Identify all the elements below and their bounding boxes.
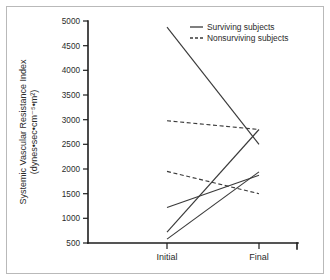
y-tick-label-3500: 3500 [62, 91, 81, 100]
y-tick-label-4000: 4000 [62, 66, 81, 75]
figure-root: 5000 4500 4000 3500 3000 2500 2000 1500 … [0, 0, 330, 280]
legend: Surviving subjects Nonsurviving subjects [190, 22, 288, 43]
series-group-nonsurviving [167, 121, 259, 194]
y-axis-title-line2: (dynes•sec•cm⁻⁵•m²) [29, 90, 39, 175]
y-tick-label-1500: 1500 [62, 190, 81, 199]
series-group-surviving [167, 27, 259, 239]
y-tick-label-2000: 2000 [62, 165, 81, 174]
y-tick-label-4500: 4500 [62, 42, 81, 51]
x-tick-label-initial: Initial [156, 252, 177, 262]
y-tick-label-2500: 2500 [62, 140, 81, 149]
y-tick-label-1000: 1000 [62, 214, 81, 223]
line-chart: 5000 4500 4000 3500 3000 2500 2000 1500 … [0, 0, 330, 280]
x-tick-marks [167, 243, 259, 249]
legend-label-nonsurviving: Nonsurviving subjects [207, 33, 288, 43]
legend-label-surviving: Surviving subjects [207, 22, 275, 32]
series-line-surviving-1 [167, 27, 259, 144]
y-axis-title: Systemic Vascular Resistance Index (dyne… [18, 59, 39, 204]
y-tick-label-500: 500 [66, 239, 80, 248]
y-tick-label-5000: 5000 [62, 17, 81, 26]
series-line-surviving-3 [167, 130, 259, 233]
y-tick-label-3000: 3000 [62, 116, 81, 125]
y-axis-title-line1: Systemic Vascular Resistance Index [18, 59, 28, 204]
series-line-nonsurviving-1 [167, 121, 259, 130]
y-tick-labels: 5000 4500 4000 3500 3000 2500 2000 1500 … [62, 17, 81, 248]
x-tick-label-final: Final [249, 252, 269, 262]
